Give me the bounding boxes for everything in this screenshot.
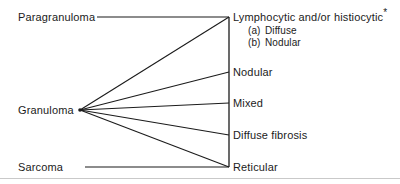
classification-diagram: Paragranuloma Granuloma Sarcoma Lymphocy… <box>0 0 400 184</box>
node-paragranuloma-label: Paragranuloma <box>18 11 95 23</box>
node-nodular-label: Nodular <box>233 66 273 78</box>
sub-item-diffuse: (a)Diffuse <box>248 25 297 36</box>
node-reticular-label: Reticular <box>233 161 278 173</box>
connector-granuloma-reticular <box>80 110 229 167</box>
node-sarcoma: Sarcoma <box>18 161 63 173</box>
granuloma-fan-hub <box>78 108 82 112</box>
node-mixed-label: Mixed <box>233 97 263 109</box>
node-granuloma: Granuloma <box>18 104 74 116</box>
node-nodular: Nodular <box>233 66 273 78</box>
node-diffuse-fibrosis: Diffuse fibrosis <box>233 129 307 141</box>
sub-item-nodular-label: Nodular <box>265 37 301 48</box>
diagram-connector-lines <box>0 0 400 184</box>
sub-item-diffuse-label: Diffuse <box>265 25 297 36</box>
node-mixed: Mixed <box>233 97 263 109</box>
node-sarcoma-label: Sarcoma <box>18 161 63 173</box>
footnote-asterisk-icon: * <box>383 7 387 18</box>
sub-item-diffuse-marker: (a) <box>248 25 265 36</box>
node-diffuse-fibrosis-label: Diffuse fibrosis <box>233 129 307 141</box>
connector-granuloma-lymphocytic <box>80 17 229 110</box>
connector-granuloma-diffuse-fibrosis <box>80 110 229 135</box>
node-reticular: Reticular <box>233 161 278 173</box>
node-lymphocytic-histiocytic: Lymphocytic and/or histiocytic* <box>233 11 387 23</box>
bottom-divider <box>0 178 400 179</box>
node-granuloma-label: Granuloma <box>18 104 74 116</box>
sub-item-nodular-marker: (b) <box>248 37 265 48</box>
node-lymphocytic-histiocytic-label: Lymphocytic and/or histiocytic <box>233 11 383 23</box>
node-paragranuloma: Paragranuloma <box>18 11 95 23</box>
sub-item-nodular: (b)Nodular <box>248 37 301 48</box>
